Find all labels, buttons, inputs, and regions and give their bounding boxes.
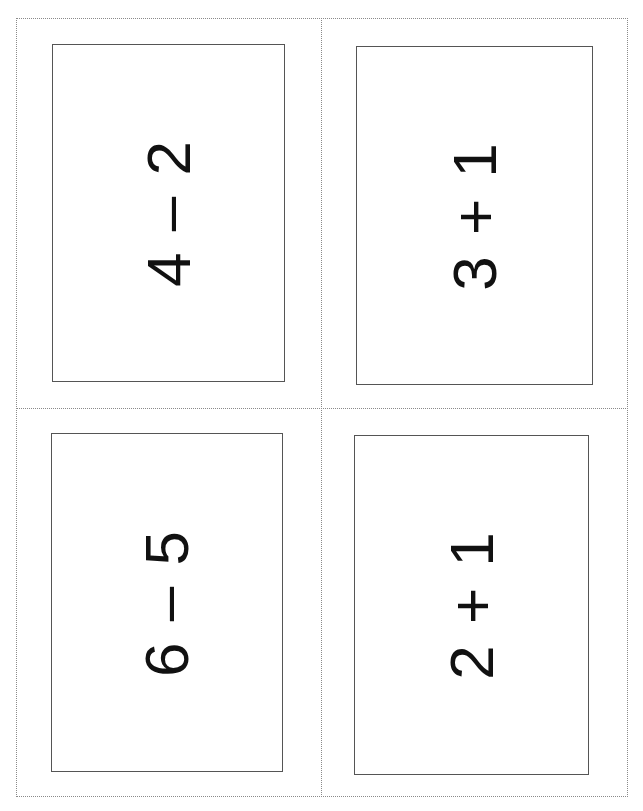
card-expression: 4 – 2 (138, 139, 200, 287)
flash-card-top-left: 4 – 2 (52, 44, 285, 382)
card-expression: 6 – 5 (136, 529, 198, 677)
flash-card-bottom-left: 6 – 5 (51, 433, 283, 772)
flash-card-top-right: 3 + 1 (356, 46, 593, 385)
card-expression: 3 + 1 (444, 141, 506, 291)
horizontal-cut-line (16, 408, 628, 409)
card-expression: 2 + 1 (441, 530, 503, 680)
flash-card-bottom-right: 2 + 1 (354, 435, 589, 775)
